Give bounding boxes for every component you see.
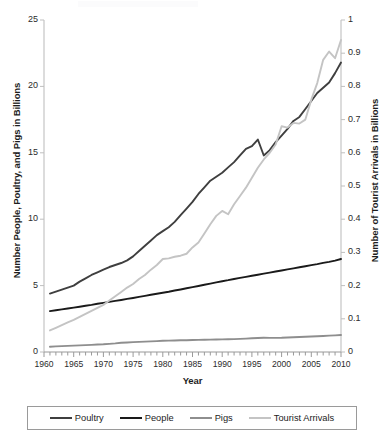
y-axis-right-tick-label: 0.9	[348, 47, 378, 57]
y-axis-left-title: Number People, Poultry, and Pigs in Bill…	[11, 56, 22, 306]
legend-entry-poultry[interactable]: Poultry	[42, 413, 112, 423]
legend-swatch-icon	[120, 417, 142, 419]
legend-swatch-icon	[50, 417, 72, 419]
y-axis-left-tick-label: 10	[10, 213, 38, 223]
legend-swatch-icon	[249, 417, 271, 419]
series-line-poultry	[50, 63, 341, 294]
y-axis-right-tick-label: 0.2	[348, 280, 378, 290]
x-axis-tick-label: 2010	[321, 359, 361, 369]
chart-legend: PoultryPeoplePigsTourist Arrivals	[27, 406, 357, 430]
legend-label: People	[145, 413, 174, 423]
y-axis-right-tick-label: 0.7	[348, 114, 378, 124]
y-axis-right-tick-label: 0.3	[348, 246, 378, 256]
y-axis-right-tick-label: 0.5	[348, 180, 378, 190]
line-chart: Number People, Poultry, and Pigs in Bill…	[0, 0, 385, 438]
legend-entry-tourist-arrivals[interactable]: Tourist Arrivals	[241, 413, 342, 423]
legend-label: Pigs	[215, 413, 233, 423]
y-axis-left-tick-label: 25	[10, 14, 38, 24]
series-line-people	[50, 259, 341, 311]
y-axis-right-tick-label: 0.6	[348, 147, 378, 157]
y-axis-right-tick-label: 0	[348, 346, 378, 356]
legend-swatch-icon	[190, 417, 212, 419]
y-axis-left-tick-label: 0	[10, 346, 38, 356]
y-axis-right-tick-label: 1	[348, 14, 378, 24]
legend-label: Tourist Arrivals	[274, 413, 334, 423]
legend-entry-people[interactable]: People	[112, 413, 182, 423]
figure-area: Number People, Poultry, and Pigs in Bill…	[0, 0, 385, 392]
x-axis-title: Year	[44, 375, 341, 386]
y-axis-right-tick-label: 0.4	[348, 213, 378, 223]
legend-entry-pigs[interactable]: Pigs	[182, 413, 241, 423]
series-line-pigs	[50, 335, 341, 347]
y-axis-left-tick-label: 5	[10, 280, 38, 290]
y-axis-right-tick-label: 0.8	[348, 80, 378, 90]
y-axis-right-tick-label: 0.1	[348, 313, 378, 323]
plot-canvas	[0, 0, 385, 392]
y-axis-left-tick-label: 20	[10, 80, 38, 90]
legend-label: Poultry	[75, 413, 104, 423]
y-axis-left-tick-label: 15	[10, 147, 38, 157]
